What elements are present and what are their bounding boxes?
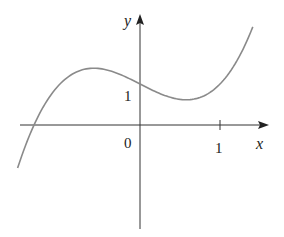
x-axis-label: x xyxy=(255,135,263,152)
y-tick-label-1: 1 xyxy=(124,88,132,104)
x-tick-label-1: 1 xyxy=(215,140,223,156)
y-axis-label: y xyxy=(122,12,132,30)
origin-label: 0 xyxy=(124,135,132,151)
function-graph: y x 0 1 1 xyxy=(0,0,284,237)
